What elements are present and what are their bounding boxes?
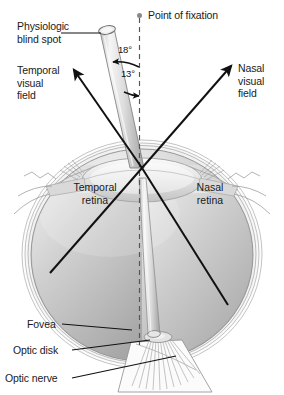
label-optic-disk: Optic disk xyxy=(13,344,58,357)
label-temporal-visual-field: Temporal visual field xyxy=(17,64,59,102)
eye-anatomy-svg xyxy=(0,0,284,395)
angle-label-18-degrees: 18° xyxy=(118,44,132,55)
eye-diagram-figure: Physiologic blind spot Temporal visual f… xyxy=(0,0,284,395)
fixation-dot-icon xyxy=(137,13,142,18)
label-nasal-retina: Nasal retina xyxy=(179,181,241,206)
label-point-of-fixation: Point of fixation xyxy=(148,9,218,22)
label-nasal-visual-field: Nasal visual field xyxy=(238,62,264,100)
label-temporal-retina: Temporal retina xyxy=(55,181,135,206)
label-optic-nerve: Optic nerve xyxy=(5,372,58,385)
label-physiologic-blind-spot: Physiologic blind spot xyxy=(17,20,69,45)
angle-label-13-degrees: 13° xyxy=(121,68,135,79)
label-fovea: Fovea xyxy=(27,318,56,331)
